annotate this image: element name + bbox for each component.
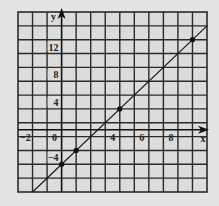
data-point [74,148,79,153]
x-tick-label: 4 [110,132,115,143]
x-tick-label: 0 [52,132,57,143]
y-axis-label: y [51,11,56,22]
x-tick-label: 8 [168,132,173,143]
chart: −204681284−4xy [0,0,219,206]
x-tick-label: −2 [20,132,31,143]
x-axis-label: x [201,133,206,144]
y-tick-label: −4 [48,152,59,163]
grid [18,12,207,192]
data-point [190,37,195,42]
y-tick-label: 12 [49,42,59,53]
y-tick-label: 4 [54,97,59,108]
data-point [117,106,122,111]
y-tick-label: 8 [54,69,59,80]
x-tick-label: 6 [139,132,144,143]
data-point [59,162,64,167]
